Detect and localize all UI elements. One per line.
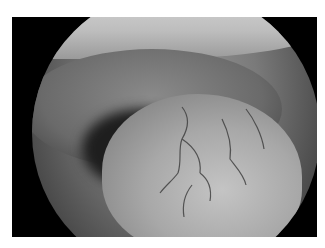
surface-vessels [32,17,317,237]
scope-field [32,17,317,237]
endoscopic-image-frame [12,17,317,237]
